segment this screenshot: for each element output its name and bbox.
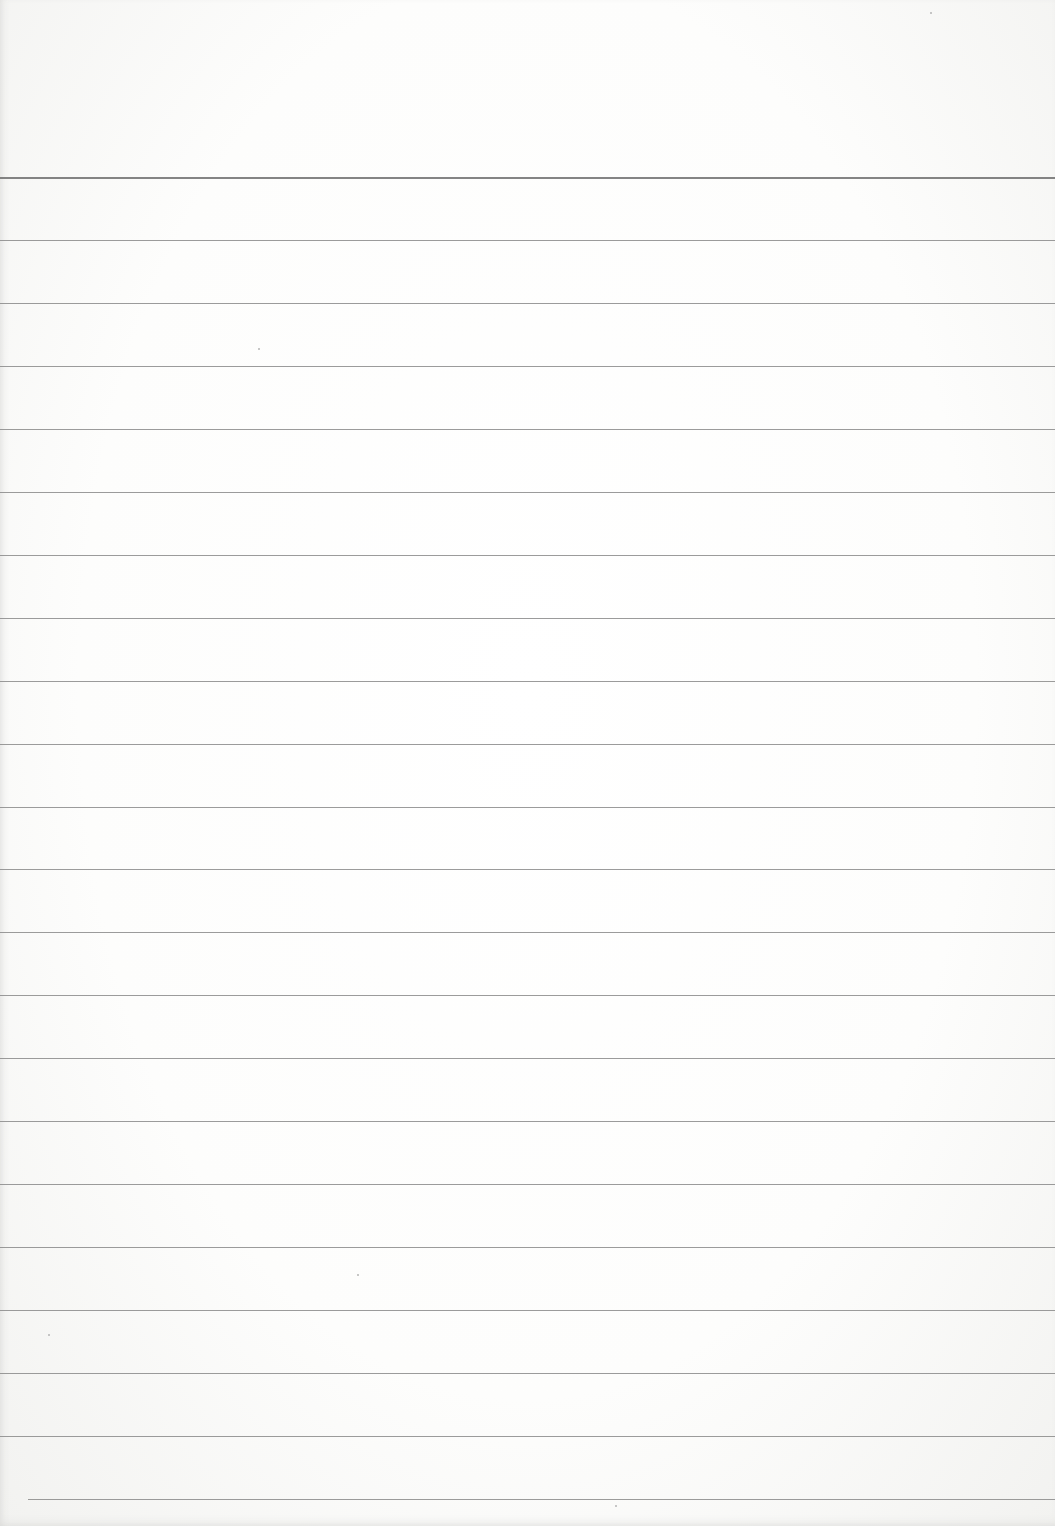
ruled-line [0, 869, 1055, 870]
ruled-line [0, 618, 1055, 619]
ruled-line [0, 366, 1055, 367]
ruled-line [0, 1058, 1055, 1059]
ruled-line [0, 555, 1055, 556]
ruled-line [0, 1121, 1055, 1122]
ruled-line [0, 681, 1055, 682]
ruled-line [0, 429, 1055, 430]
ruled-line [0, 177, 1055, 179]
paper-speck [357, 1274, 359, 1276]
ruled-line [0, 995, 1055, 996]
ruled-line [0, 1310, 1055, 1311]
ruled-line [0, 744, 1055, 745]
ruled-line [28, 1499, 1055, 1500]
paper-speck [615, 1505, 617, 1507]
ruled-line [0, 807, 1055, 808]
lined-paper-sheet [0, 0, 1055, 1526]
ruled-line [0, 1373, 1055, 1374]
ruled-line [0, 240, 1055, 241]
ruled-line [0, 1184, 1055, 1185]
ruled-line [0, 1436, 1055, 1437]
paper-speck [930, 12, 932, 14]
ruled-line [0, 492, 1055, 493]
paper-speck [258, 348, 260, 350]
ruled-line [0, 932, 1055, 933]
ruled-line [0, 303, 1055, 304]
paper-speck [48, 1334, 50, 1336]
ruled-line [0, 1247, 1055, 1248]
